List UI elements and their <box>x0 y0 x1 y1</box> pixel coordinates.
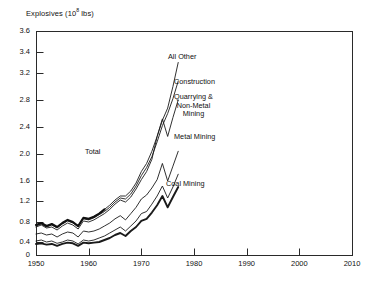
y-axis-tick-label: 2.4 <box>6 122 30 131</box>
y-axis-tick-label: 2.0 <box>6 149 30 158</box>
x-axis-tick-label: 1960 <box>72 259 106 268</box>
series-label-all-other: All Other <box>168 53 196 62</box>
y-axis-tick-label: 0.4 <box>6 237 30 246</box>
x-axis-tick-label: 2010 <box>335 259 369 268</box>
series-label-metal-mining: Metal Mining <box>174 133 215 142</box>
series-label-coal-mining: Coal Mining <box>166 180 205 189</box>
series-line-all-other <box>36 63 178 228</box>
x-axis-tick-label: 1970 <box>124 259 158 268</box>
y-axis-tick-label: 3.2 <box>6 68 30 77</box>
y-axis-tick-label: 2.8 <box>6 95 30 104</box>
series-label-quarrying-non-metal-mining: Quarrying &Non-MetalMining <box>174 93 213 119</box>
series-label-total: Total <box>85 148 100 157</box>
y-axis-tick-label: 0 <box>6 250 30 259</box>
y-axis-tick-label: 1.2 <box>6 196 30 205</box>
series-label-construction: Construction <box>174 78 215 87</box>
y-axis-tick-label: 0.8 <box>6 217 30 226</box>
y-axis-tick-label: 1.6 <box>6 176 30 185</box>
y-axis-tick-label: 3.6 <box>6 26 30 35</box>
x-axis-tick-label: 1990 <box>230 259 264 268</box>
series-line-quarrying-non-metal-mining <box>36 100 178 230</box>
x-axis-tick-label: 1980 <box>177 259 211 268</box>
x-axis-tick-label: 2000 <box>282 259 316 268</box>
series-line-metal-mining <box>36 151 178 237</box>
chart-figure: Explosives (108 lbs) 3.63.43.22.82.42.01… <box>0 0 376 281</box>
y-axis-tick-label: 3.4 <box>6 47 30 56</box>
x-axis-tick-label: 1950 <box>19 259 53 268</box>
